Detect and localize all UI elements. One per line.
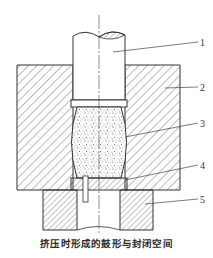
- label-3: 3: [200, 118, 205, 129]
- label-4: 4: [200, 160, 205, 171]
- label-1: 1: [200, 37, 205, 48]
- label-2: 2: [200, 82, 205, 93]
- figure-caption: 挤压时形成的鼓形与封闭空间: [0, 236, 213, 250]
- part-labels: 1 2 3 4 5: [200, 37, 205, 205]
- extrusion-diagram: 1 2 3 4 5: [0, 0, 213, 258]
- support: [43, 190, 153, 230]
- label-5: 5: [200, 194, 205, 205]
